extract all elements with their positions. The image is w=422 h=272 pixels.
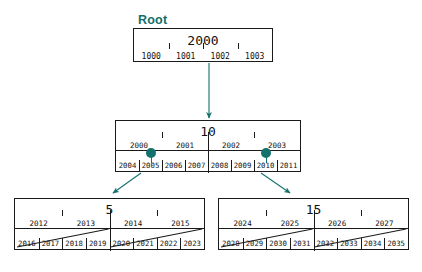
root-pointer-tick [169,43,170,49]
leaf-left-pointer-cell[interactable]: 2022 [157,238,181,249]
root-pointer-tick [203,43,204,49]
cell-divider [384,238,385,249]
leaf-left-key-label: 2012 [30,219,48,228]
cell-divider [337,238,338,249]
leaf-right-pointer-cell[interactable]: 2029 [243,238,267,249]
leaf-left-key-tick [62,210,63,216]
internal-node-key-label: 2002 [222,141,240,150]
leaf-left-pointer-cell[interactable]: 2023 [180,238,204,249]
leaf-right-pointer-cell[interactable]: 2031 [290,238,314,249]
root-pointer-label: 1002 [211,52,230,61]
internal-node-pointer-cell[interactable]: 2007 [185,160,208,171]
cell-divider [162,160,163,171]
leaf-left-key-tick [157,210,158,216]
cell-divider [243,238,244,249]
leaf-right-pointer-cell[interactable]: 2034 [361,238,385,249]
leaf-left-pointer-cell[interactable]: 2020 [110,238,134,249]
internal-node-key-label: 2001 [176,141,194,150]
cell-divider [361,238,362,249]
root-node[interactable]: 2000 1000100110021003 [133,28,273,62]
leaf-left-key-label: 2015 [171,219,189,228]
node-half-divider [110,216,111,251]
internal-node-pointer-cell[interactable]: 2004 [116,160,139,171]
cell-divider [86,238,87,249]
cell-divider [133,238,134,249]
root-pointer-strip: 1000100110021003 [134,48,272,61]
cell-divider [139,160,140,171]
leaf-right-pointer-cell[interactable]: 2030 [266,238,290,249]
internal-node-key-label: 2000 [130,141,148,150]
cell-divider [39,238,40,249]
cell-divider [62,238,63,249]
cell-divider [254,160,255,171]
root-pointer-label: 1003 [245,52,264,61]
leaf-left-pointer-cell[interactable]: 2018 [62,238,86,249]
edge-10-to-5 [113,173,141,193]
root-pointer-label: 1001 [176,52,195,61]
cell-divider [231,160,232,171]
leaf-right-key-tick [266,210,267,216]
cell-divider [277,160,278,171]
cell-divider [180,238,181,249]
root-pointer-tick [238,43,239,49]
root-pointer-label: 1000 [142,52,161,61]
leaf-right-pointer-cell[interactable]: 2032 [314,238,338,249]
cell-divider [157,238,158,249]
leaf-right-key-tick [361,210,362,216]
leaf-node-5[interactable]: 5 2012201320142015 201620172018201920202… [14,198,205,250]
root-label: Root [138,13,167,27]
edge-10-to-15 [261,173,290,193]
cell-divider [185,160,186,171]
leaf-left-pointer-cell[interactable]: 2021 [133,238,157,249]
diagram-canvas: Root 2000 1000100110021003 10 2000200120… [0,0,422,272]
leaf-right-key-label: 2025 [281,219,299,228]
leaf-right-pointer-cell[interactable]: 2035 [384,238,408,249]
leaf-node-15[interactable]: 15 2024202520262027 20282029203020312032… [218,198,409,250]
leaf-left-pointer-cell[interactable]: 2019 [86,238,110,249]
leaf-left-key-label: 2014 [124,219,142,228]
leaf-right-key-label: 2024 [234,219,252,228]
pointer-stem [151,157,152,163]
leaf-right-pointer-cell[interactable]: 2028 [219,238,243,249]
internal-node-key-label: 2003 [268,141,286,150]
leaf-right-key-label: 2026 [328,219,346,228]
leaf-right-pointer-cell[interactable]: 2033 [337,238,361,249]
cell-divider [266,238,267,249]
leaf-left-key-label: 2013 [77,219,95,228]
node-half-divider [208,138,209,173]
internal-node-10[interactable]: 10 2000200120022003 20042005200620072008… [115,120,301,172]
internal-node-pointer-cell[interactable]: 2008 [208,160,231,171]
internal-node-pointer-cell[interactable]: 2009 [231,160,254,171]
pointer-stem [266,157,267,163]
cell-divider [290,238,291,249]
internal-node-pointer-cell[interactable]: 2006 [162,160,185,171]
leaf-left-pointer-cell[interactable]: 2016 [15,238,39,249]
internal-node-pointer-cell[interactable]: 2011 [277,160,300,171]
internal-node-key-tick [162,132,163,138]
internal-node-key-tick [254,132,255,138]
node-half-divider [314,216,315,251]
leaf-right-key-label: 2027 [375,219,393,228]
leaf-left-pointer-cell[interactable]: 2017 [39,238,63,249]
